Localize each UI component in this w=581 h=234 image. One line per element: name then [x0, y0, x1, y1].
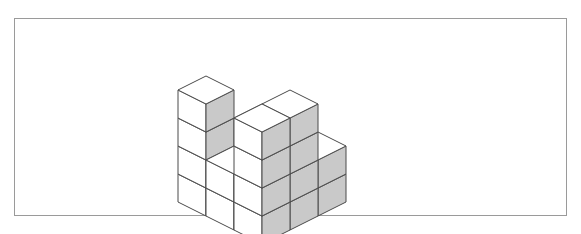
cube-group — [178, 76, 346, 234]
figure-stage — [0, 0, 581, 234]
isometric-cube-structure — [0, 0, 581, 234]
